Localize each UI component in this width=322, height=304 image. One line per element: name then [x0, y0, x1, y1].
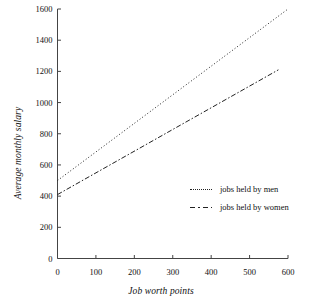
y-tick-label: 1200 [36, 67, 53, 76]
y-axis-title: Average monthly salary [13, 83, 23, 223]
x-tick-label: 100 [90, 268, 103, 277]
y-tick-label: 0 [48, 254, 52, 263]
y-tick-label: 400 [40, 192, 53, 201]
x-axis-ticks [58, 255, 289, 259]
legend-label-men: jobs held by men [220, 183, 278, 196]
x-tick-label: 200 [128, 268, 141, 277]
dash-dot-line-icon [190, 207, 212, 208]
y-tick-label: 1000 [36, 98, 53, 107]
y-axis-ticks [58, 9, 62, 259]
legend-label-women: jobs held by women [220, 201, 289, 214]
series-line-men [58, 9, 289, 181]
x-tick-label: 500 [243, 268, 256, 277]
series-line-women [58, 70, 279, 195]
x-tick-label: 400 [205, 268, 218, 277]
y-tick-label: 1600 [36, 5, 53, 14]
legend-item-men: jobs held by men [190, 181, 318, 199]
legend-item-women: jobs held by women [190, 199, 318, 217]
y-tick-label: 800 [40, 130, 53, 139]
y-tick-label: 200 [40, 223, 53, 232]
chart-figure: 02004006008001000120014001600 0100200300… [0, 0, 322, 304]
y-tick-label: 1400 [36, 36, 53, 45]
x-tick-label: 600 [282, 268, 295, 277]
x-tick-label: 0 [55, 268, 59, 277]
x-axis-title: Job worth points [0, 286, 322, 296]
chart-legend: jobs held by men jobs held by women [190, 181, 318, 217]
data-series-layer [58, 9, 289, 195]
x-tick-label: 300 [166, 268, 179, 277]
dotted-line-icon [190, 189, 212, 191]
y-tick-label: 600 [40, 161, 53, 170]
